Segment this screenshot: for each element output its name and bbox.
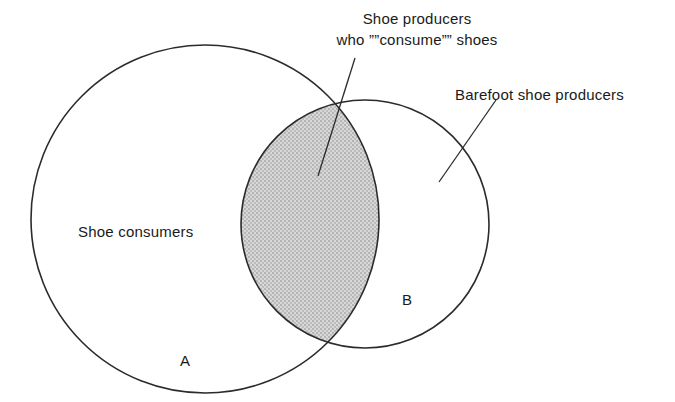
- set-letter-b: B: [402, 291, 412, 308]
- intersection-shaded-region: [241, 100, 489, 348]
- set-letter-a: A: [180, 352, 190, 369]
- leader-line-barefoot-producers: [439, 100, 496, 182]
- label-intersection-line1: Shoe producers: [302, 9, 532, 28]
- venn-diagram-figure: Shoe consumers Shoe producers who ””cons…: [0, 0, 675, 402]
- label-shoe-consumers: Shoe consumers: [78, 222, 193, 241]
- label-barefoot-shoe-producers: Barefoot shoe producers: [455, 85, 624, 104]
- venn-diagram-canvas: [0, 0, 675, 402]
- label-intersection-line2: who ””consume”” shoes: [302, 30, 532, 49]
